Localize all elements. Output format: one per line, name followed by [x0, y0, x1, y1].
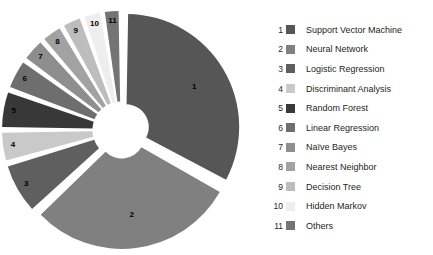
pie-slice-label: 10 — [90, 19, 99, 28]
pie-slice-label: 9 — [74, 26, 79, 35]
legend-item[interactable]: 5Random Forest — [266, 98, 433, 118]
pie-slice-label: 1 — [192, 82, 197, 91]
legend-item-label: Discriminant Analysis — [306, 84, 391, 94]
legend-color-swatch — [286, 45, 295, 54]
legend-item-label: Nearest Neighbor — [306, 162, 377, 172]
legend-color-swatch — [286, 104, 295, 113]
legend-item[interactable]: 1Support Vector Machine — [266, 20, 433, 40]
pie-slice-label: 8 — [55, 37, 60, 46]
legend-item-label: Neural Network — [306, 44, 368, 54]
legend-color-swatch — [286, 64, 295, 73]
legend-item-label: Decision Tree — [306, 182, 361, 192]
legend-color-swatch — [286, 221, 295, 230]
legend-item[interactable]: 10Hidden Markov — [266, 196, 433, 216]
pie-slice-label: 4 — [11, 140, 16, 149]
legend-item-index: 3 — [266, 64, 286, 74]
legend-item-index: 1 — [266, 25, 286, 35]
pie-slice-label: 3 — [24, 179, 29, 188]
chart-legend: 1Support Vector Machine2Neural Network3L… — [266, 20, 433, 236]
pie-slice-label: 5 — [11, 106, 16, 115]
legend-item[interactable]: 11Others — [266, 216, 433, 236]
legend-item-label: Support Vector Machine — [306, 25, 402, 35]
legend-item[interactable]: 4Discriminant Analysis — [266, 79, 433, 99]
legend-item[interactable]: 6Linear Regression — [266, 118, 433, 138]
legend-color-swatch — [286, 25, 295, 34]
legend-item[interactable]: 2Neural Network — [266, 40, 433, 60]
legend-item-index: 5 — [266, 103, 286, 113]
pie-slice-group — [2, 11, 239, 249]
pie-slice-label: 11 — [108, 16, 117, 25]
legend-item[interactable]: 8Nearest Neighbor — [266, 157, 433, 177]
legend-item-index: 11 — [266, 221, 286, 231]
pie-slice-label: 2 — [129, 210, 134, 219]
legend-item-label: Random Forest — [306, 103, 368, 113]
legend-color-swatch — [286, 84, 295, 93]
legend-item-index: 8 — [266, 162, 286, 172]
legend-color-swatch — [286, 202, 295, 211]
legend-item-index: 7 — [266, 142, 286, 152]
pie-slice-label: 7 — [38, 52, 43, 61]
legend-item-label: Naïve Bayes — [306, 142, 357, 152]
legend-item[interactable]: 9Decision Tree — [266, 177, 433, 197]
legend-item-index: 9 — [266, 182, 286, 192]
legend-item-label: Linear Regression — [306, 123, 379, 133]
legend-item[interactable]: 7Naïve Bayes — [266, 138, 433, 158]
legend-item-label: Others — [306, 221, 333, 231]
legend-item-label: Logistic Regression — [306, 64, 385, 74]
legend-item-index: 4 — [266, 84, 286, 94]
legend-item-index: 6 — [266, 123, 286, 133]
pie-chart-svg: 1234567891011 — [0, 0, 262, 255]
pie-slice-label: 6 — [22, 74, 27, 83]
legend-color-swatch — [286, 162, 295, 171]
legend-color-swatch — [286, 182, 295, 191]
legend-item[interactable]: 3Logistic Regression — [266, 59, 433, 79]
legend-item-index: 10 — [266, 201, 286, 211]
legend-item-index: 2 — [266, 44, 286, 54]
legend-color-swatch — [286, 143, 295, 152]
legend-item-label: Hidden Markov — [306, 201, 367, 211]
legend-color-swatch — [286, 123, 295, 132]
pie-chart-area: 1234567891011 — [0, 0, 262, 255]
